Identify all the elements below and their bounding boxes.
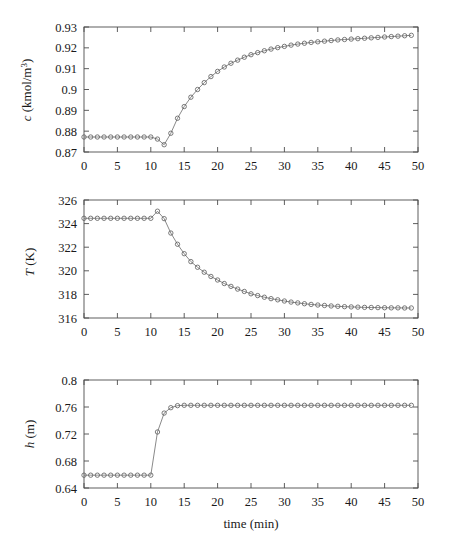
plot-svg-temperature: 05101520253035404550316318320322324326 T… [0, 176, 450, 356]
y-axis-label-close-c: ) [19, 59, 34, 63]
x-tick-label: 15 [178, 325, 191, 339]
x-tick-label: 25 [245, 495, 258, 509]
x-tick-label: 30 [278, 325, 291, 339]
y-tick-label: 0.68 [55, 455, 77, 469]
x-tick-label: 40 [345, 159, 358, 173]
y-tick-label: 318 [58, 288, 77, 302]
plot-frame [84, 27, 418, 152]
y-tick-label: 0.9 [61, 83, 77, 97]
x-tick-label: 30 [278, 495, 291, 509]
x-tick-label: 0 [81, 325, 87, 339]
y-axis-label-concentration: c (kmol/m3) [19, 59, 34, 122]
y-tick-label: 0.8 [61, 374, 77, 388]
x-tick-label: 20 [211, 325, 224, 339]
x-axis-label: time (min) [223, 516, 278, 531]
y-tick-label: 324 [58, 217, 78, 231]
x-tick-label: 50 [412, 159, 425, 173]
x-tick-label: 5 [114, 159, 120, 173]
figure-container: 051015202530354045500.870.880.890.90.910… [0, 0, 450, 541]
x-tick-label: 35 [312, 325, 325, 339]
y-tick-label: 326 [58, 194, 77, 208]
y-tick-label: 0.91 [55, 62, 77, 76]
panel-concentration: 051015202530354045500.870.880.890.90.910… [0, 0, 450, 180]
plot-frame [84, 200, 418, 318]
y-axis-label-units-T: (K) [22, 248, 37, 269]
y-tick-label: 0.93 [55, 21, 77, 35]
y-axis-label-level: h (m) [22, 420, 37, 449]
y-tick-label: 0.64 [55, 482, 78, 496]
y-axis-label-units-h: (m) [22, 420, 37, 442]
x-tick-label: 35 [312, 495, 325, 509]
x-tick-label: 20 [211, 495, 224, 509]
x-tick-label: 5 [114, 325, 120, 339]
x-tick-label: 15 [178, 495, 191, 509]
x-tick-label: 45 [378, 495, 391, 509]
x-tick-label: 25 [245, 159, 258, 173]
x-tick-label: 15 [178, 159, 191, 173]
data-series-line [84, 405, 411, 475]
y-tick-label: 320 [58, 264, 77, 278]
x-tick-label: 45 [378, 159, 391, 173]
x-tick-label: 35 [312, 159, 325, 173]
y-tick-label: 0.89 [55, 104, 77, 118]
x-tick-label: 50 [412, 495, 425, 509]
x-tick-label: 30 [278, 159, 291, 173]
x-tick-label: 40 [345, 325, 358, 339]
y-tick-label: 0.92 [55, 41, 77, 55]
y-tick-label: 0.76 [55, 401, 77, 415]
x-tick-label: 40 [345, 495, 358, 509]
x-tick-label: 45 [378, 325, 391, 339]
panel-temperature: 05101520253035404550316318320322324326 T… [0, 176, 450, 356]
data-series-line [84, 211, 411, 308]
x-tick-label: 0 [81, 159, 87, 173]
y-tick-label: 0.72 [55, 428, 77, 442]
y-axis-label-temperature: T (K) [22, 248, 37, 277]
plot-svg-concentration: 051015202530354045500.870.880.890.90.910… [0, 0, 450, 180]
x-tick-label: 10 [145, 325, 158, 339]
x-tick-label: 20 [211, 159, 224, 173]
x-tick-label: 10 [145, 159, 158, 173]
x-tick-label: 5 [114, 495, 120, 509]
x-tick-label: 0 [81, 495, 87, 509]
y-axis-label-units-c: (kmol/m [19, 68, 34, 116]
data-series-line [84, 35, 411, 144]
x-tick-label: 10 [145, 495, 158, 509]
x-tick-label: 50 [412, 325, 425, 339]
plot-frame [84, 380, 418, 488]
y-tick-label: 0.87 [55, 146, 77, 160]
panel-level: 051015202530354045500.640.680.720.760.8 … [0, 352, 450, 541]
plot-svg-level: 051015202530354045500.640.680.720.760.8 … [0, 352, 450, 541]
y-tick-label: 316 [58, 312, 77, 326]
y-tick-label: 322 [58, 241, 77, 255]
x-tick-label: 25 [245, 325, 258, 339]
y-tick-label: 0.88 [55, 125, 77, 139]
